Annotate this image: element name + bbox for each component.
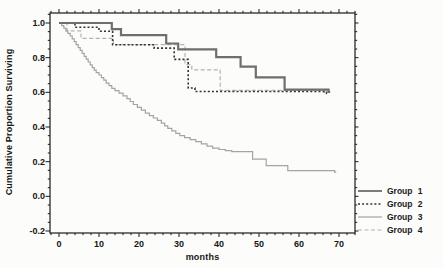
x-tick-label: 60: [294, 239, 304, 249]
x-tick-label: 10: [94, 239, 104, 249]
x-tick-label: 40: [214, 239, 224, 249]
curve-group-3: [59, 23, 336, 172]
y-tick-label: -0.2: [29, 226, 45, 236]
y-axis-title: Cumulative Proportion Surviving: [4, 12, 16, 232]
x-axis-title: months: [50, 252, 355, 264]
x-tick-label: 30: [174, 239, 184, 249]
tick-labels: 0102030405060701.00.80.60.40.20.0-0.2: [29, 18, 344, 249]
legend-line-sample: [358, 188, 382, 194]
legend-item-group-3: Group 3: [358, 210, 423, 223]
legend: Group 1Group 2Group 3Group 4: [358, 184, 423, 236]
axis-frame: [50, 13, 355, 233]
y-tick-label: 0.2: [32, 157, 45, 167]
legend-line-sample: [358, 201, 382, 207]
legend-item-group-4: Group 4: [358, 223, 423, 236]
y-tick-label: 0.8: [32, 53, 45, 63]
x-tick-label: 0: [56, 239, 61, 249]
legend-label: Group 3: [387, 212, 423, 222]
y-tick-label: 0.6: [32, 87, 45, 97]
x-tick-label: 70: [334, 239, 344, 249]
y-tick-label: 0.4: [32, 122, 45, 132]
y-tick-label: 1.0: [32, 18, 45, 28]
legend-label: Group 2: [387, 199, 423, 209]
legend-item-group-2: Group 2: [358, 197, 423, 210]
x-tick-label: 20: [134, 239, 144, 249]
legend-label: Group 1: [387, 186, 423, 196]
legend-item-group-1: Group 1: [358, 184, 423, 197]
curve-group-2: [59, 23, 328, 94]
y-tick-label: 0.0: [32, 191, 45, 201]
survival-figure: 0102030405060701.00.80.60.40.20.0-0.2 Cu…: [0, 0, 443, 268]
legend-line-sample: [358, 214, 382, 220]
axis-ticks: [46, 9, 359, 237]
legend-line-sample: [358, 227, 382, 233]
x-tick-label: 50: [254, 239, 264, 249]
legend-label: Group 4: [387, 225, 423, 235]
series-curves: [59, 23, 336, 172]
curve-group-1: [59, 23, 330, 92]
